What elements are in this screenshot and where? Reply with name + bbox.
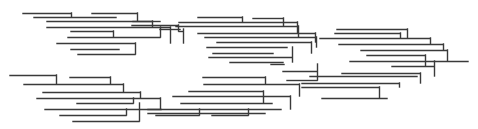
dendrogram-diagram (0, 0, 478, 129)
dendrogram-lines (0, 0, 478, 129)
